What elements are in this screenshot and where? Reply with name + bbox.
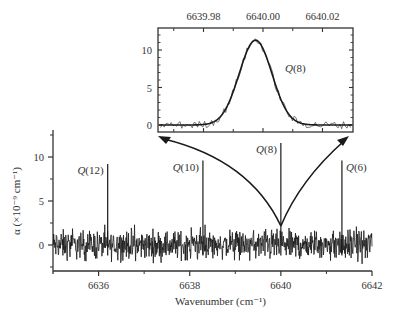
inset-y-tick-label: 10 <box>142 45 153 56</box>
peak-label: Q(8) <box>256 143 277 156</box>
x-tick-label: 6636 <box>88 280 109 291</box>
chart-canvas: 66366638664066420510Wavenumber (cm⁻¹)α (… <box>0 0 396 318</box>
y-axis-title: α (×10⁻⁹ cm⁻¹) <box>10 167 23 235</box>
y-tick-label: 5 <box>39 196 44 207</box>
peak-label: Q(10) <box>173 161 200 174</box>
peak-label-letter: Q <box>346 161 354 173</box>
inset-label-letter: Q <box>285 62 293 74</box>
peak-label-number: (10) <box>181 161 200 174</box>
peak-label-letter: Q <box>173 161 181 173</box>
y-tick-label: 10 <box>34 152 45 163</box>
zoom-arrows <box>158 136 349 226</box>
peak-label-number: (12) <box>85 164 104 177</box>
noise-trace <box>53 225 372 264</box>
inset-label-number: (8) <box>293 62 306 75</box>
y-tick-label: 0 <box>39 240 44 251</box>
inset-y-tick-label: 0 <box>147 120 152 131</box>
x-tick-label: 6638 <box>179 280 200 291</box>
x-tick-label: 6640 <box>270 280 291 291</box>
inset-x-tick-label: 6640.02 <box>305 11 339 22</box>
inset-plot: 6639.986640.006640.020510Q(8) <box>142 11 354 132</box>
peak-label-letter: Q <box>256 143 264 155</box>
arrowhead-right <box>337 136 349 146</box>
inset-peak-label: Q(8) <box>285 62 306 75</box>
inset-x-tick-label: 6640.00 <box>246 11 280 22</box>
peak-label: Q(6) <box>346 161 367 174</box>
x-tick-label: 6642 <box>362 280 383 291</box>
inset-y-tick-label: 5 <box>147 83 152 94</box>
peak-label-number: (6) <box>354 161 367 174</box>
peak-label-number: (8) <box>264 143 277 156</box>
peak-label: Q(12) <box>77 164 104 177</box>
inset-frame <box>158 28 353 132</box>
arrow-right <box>281 141 344 226</box>
peak-label-letter: Q <box>77 164 85 176</box>
spectrum-figure: 66366638664066420510Wavenumber (cm⁻¹)α (… <box>0 0 396 318</box>
x-axis-title: Wavenumber (cm⁻¹) <box>175 295 266 308</box>
inset-x-tick-label: 6639.98 <box>186 11 220 22</box>
